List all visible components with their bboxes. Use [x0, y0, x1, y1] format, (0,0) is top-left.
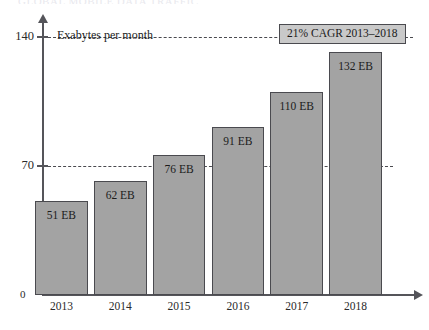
y-axis-tick-label: 140 [0, 29, 34, 44]
bar-value-label: 62 EB [106, 190, 135, 202]
bar-2018[interactable]: 132 EB [329, 52, 382, 295]
y-axis-unit-note: Exabytes per month [57, 28, 153, 43]
bar-rect [212, 127, 265, 295]
y-axis-tick [37, 36, 48, 38]
bar-rect [329, 52, 382, 295]
bar-2016[interactable]: 91 EB [212, 127, 265, 295]
bar-value-label: 76 EB [165, 164, 194, 176]
bar-value-label: 91 EB [223, 136, 252, 148]
bar-value-label: 51 EB [47, 210, 76, 222]
x-axis-category-label: 2017 [270, 300, 323, 312]
bar-2017[interactable]: 110 EB [270, 92, 323, 295]
x-axis-category-label: 2015 [153, 300, 206, 312]
x-axis-category-label: 2014 [94, 300, 147, 312]
x-axis-category-label: 2016 [212, 300, 265, 312]
bar-value-label: 110 EB [280, 101, 314, 113]
plot-area: 51 EB201362 EB201476 EB201591 EB2016110 … [0, 0, 429, 330]
bar-2013[interactable]: 51 EB [35, 201, 88, 295]
bar-chart: GLOBAL MOBILE DATA TRAFFIC 0 51 EB201362… [0, 0, 429, 330]
x-axis-category-label: 2018 [329, 300, 382, 312]
bar-rect [270, 92, 323, 295]
x-axis-category-label: 2013 [35, 300, 88, 312]
y-axis-tick [37, 165, 48, 167]
bar-2015[interactable]: 76 EB [153, 155, 206, 295]
y-axis-tick-label: 70 [0, 158, 34, 173]
bar-rect [153, 155, 206, 295]
bar-value-label: 132 EB [338, 61, 373, 73]
cagr-annotation-badge: 21% CAGR 2013–2018 [279, 24, 406, 44]
bar-2014[interactable]: 62 EB [94, 181, 147, 295]
